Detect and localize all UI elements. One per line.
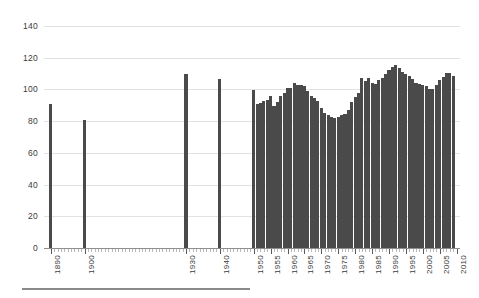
y-tick-label: 20 <box>8 212 38 221</box>
x-tick-minor <box>139 249 140 252</box>
x-tick-label: 1975 <box>341 255 349 274</box>
x-tick-minor <box>348 249 349 252</box>
x-tick-minor <box>379 249 380 252</box>
x-tick-minor <box>179 249 180 252</box>
x-tick-minor <box>81 249 82 252</box>
x-tick-minor <box>64 249 65 252</box>
x-tick-minor <box>227 249 228 252</box>
x-tick-major <box>321 249 322 254</box>
x-tick-major <box>440 249 441 254</box>
x-tick-minor <box>74 249 75 252</box>
x-tick-minor <box>396 249 397 252</box>
x-tick-major <box>406 249 407 254</box>
x-tick-label: 1970 <box>324 255 332 274</box>
x-tick-minor <box>436 249 437 252</box>
x-tick-minor <box>196 249 197 252</box>
x-tick-minor <box>260 249 261 252</box>
bar <box>184 74 187 248</box>
x-tick-minor <box>311 249 312 252</box>
bar-chart: 140 120 100 80 60 40 20 0 18901900193019… <box>0 0 479 298</box>
x-tick-minor <box>162 249 163 252</box>
x-tick-major <box>457 249 458 254</box>
x-tick-minor <box>118 249 119 252</box>
x-tick-minor <box>71 249 72 252</box>
x-tick-minor <box>375 249 376 252</box>
x-tick-minor <box>213 249 214 252</box>
x-tick-minor <box>233 249 234 252</box>
x-tick-minor <box>152 249 153 252</box>
x-tick-minor <box>409 249 410 252</box>
x-tick-major <box>423 249 424 254</box>
x-tick-minor <box>61 249 62 252</box>
x-tick-minor <box>101 249 102 252</box>
x-tick-major <box>220 249 221 254</box>
x-tick-minor <box>115 249 116 252</box>
bar <box>83 120 86 248</box>
x-tick-minor <box>277 249 278 252</box>
x-tick-minor <box>200 249 201 252</box>
bar <box>49 104 52 248</box>
x-tick-minor <box>95 249 96 252</box>
x-tick-minor <box>284 249 285 252</box>
x-tick-minor <box>294 249 295 252</box>
x-tick-minor <box>301 249 302 252</box>
x-tick-minor <box>216 249 217 252</box>
x-tick-minor <box>413 249 414 252</box>
x-tick-label: 1995 <box>409 255 417 274</box>
x-tick-major <box>186 249 187 254</box>
x-tick-minor <box>183 249 184 252</box>
x-axis-ticks <box>44 249 460 254</box>
x-tick-minor <box>88 249 89 252</box>
x-tick-minor <box>453 249 454 252</box>
x-tick-minor <box>240 249 241 252</box>
x-tick-minor <box>298 249 299 252</box>
x-tick-minor <box>257 249 258 252</box>
y-axis-labels: 140 120 100 80 60 40 20 0 <box>4 0 38 298</box>
x-tick-minor <box>419 249 420 252</box>
x-tick-major <box>85 249 86 254</box>
y-tick-label: 60 <box>8 149 38 158</box>
x-tick-major <box>304 249 305 254</box>
x-tick-minor <box>142 249 143 252</box>
x-tick-minor <box>108 249 109 252</box>
x-tick-minor <box>135 249 136 252</box>
bar <box>218 79 221 248</box>
x-tick-major <box>271 249 272 254</box>
x-tick-minor <box>443 249 444 252</box>
x-tick-label: 1950 <box>257 255 265 274</box>
x-tick-minor <box>125 249 126 252</box>
x-tick-minor <box>159 249 160 252</box>
x-tick-minor <box>416 249 417 252</box>
x-tick-minor <box>308 249 309 252</box>
x-tick-minor <box>169 249 170 252</box>
x-tick-minor <box>281 249 282 252</box>
x-tick-minor <box>112 249 113 252</box>
x-tick-minor <box>331 249 332 252</box>
y-tick-label: 40 <box>8 181 38 190</box>
x-tick-minor <box>369 249 370 252</box>
x-tick-minor <box>206 249 207 252</box>
x-tick-minor <box>91 249 92 252</box>
x-tick-minor <box>386 249 387 252</box>
x-tick-minor <box>210 249 211 252</box>
x-tick-minor <box>145 249 146 252</box>
x-tick-minor <box>78 249 79 252</box>
x-tick-minor <box>325 249 326 252</box>
x-tick-minor <box>335 249 336 252</box>
x-tick-minor <box>230 249 231 252</box>
y-tick-label: 140 <box>8 22 38 31</box>
x-tick-minor <box>166 249 167 252</box>
x-tick-minor <box>54 249 55 252</box>
x-tick-minor <box>359 249 360 252</box>
x-tick-minor <box>365 249 366 252</box>
x-tick-minor <box>291 249 292 252</box>
x-tick-minor <box>58 249 59 252</box>
x-tick-minor <box>345 249 346 252</box>
x-tick-label: 1965 <box>307 255 315 274</box>
x-tick-minor <box>430 249 431 252</box>
x-tick-label: 2005 <box>443 255 451 274</box>
x-tick-major <box>51 249 52 254</box>
x-tick-minor <box>382 249 383 252</box>
x-tick-minor <box>237 249 238 252</box>
x-tick-label: 1890 <box>54 255 62 274</box>
